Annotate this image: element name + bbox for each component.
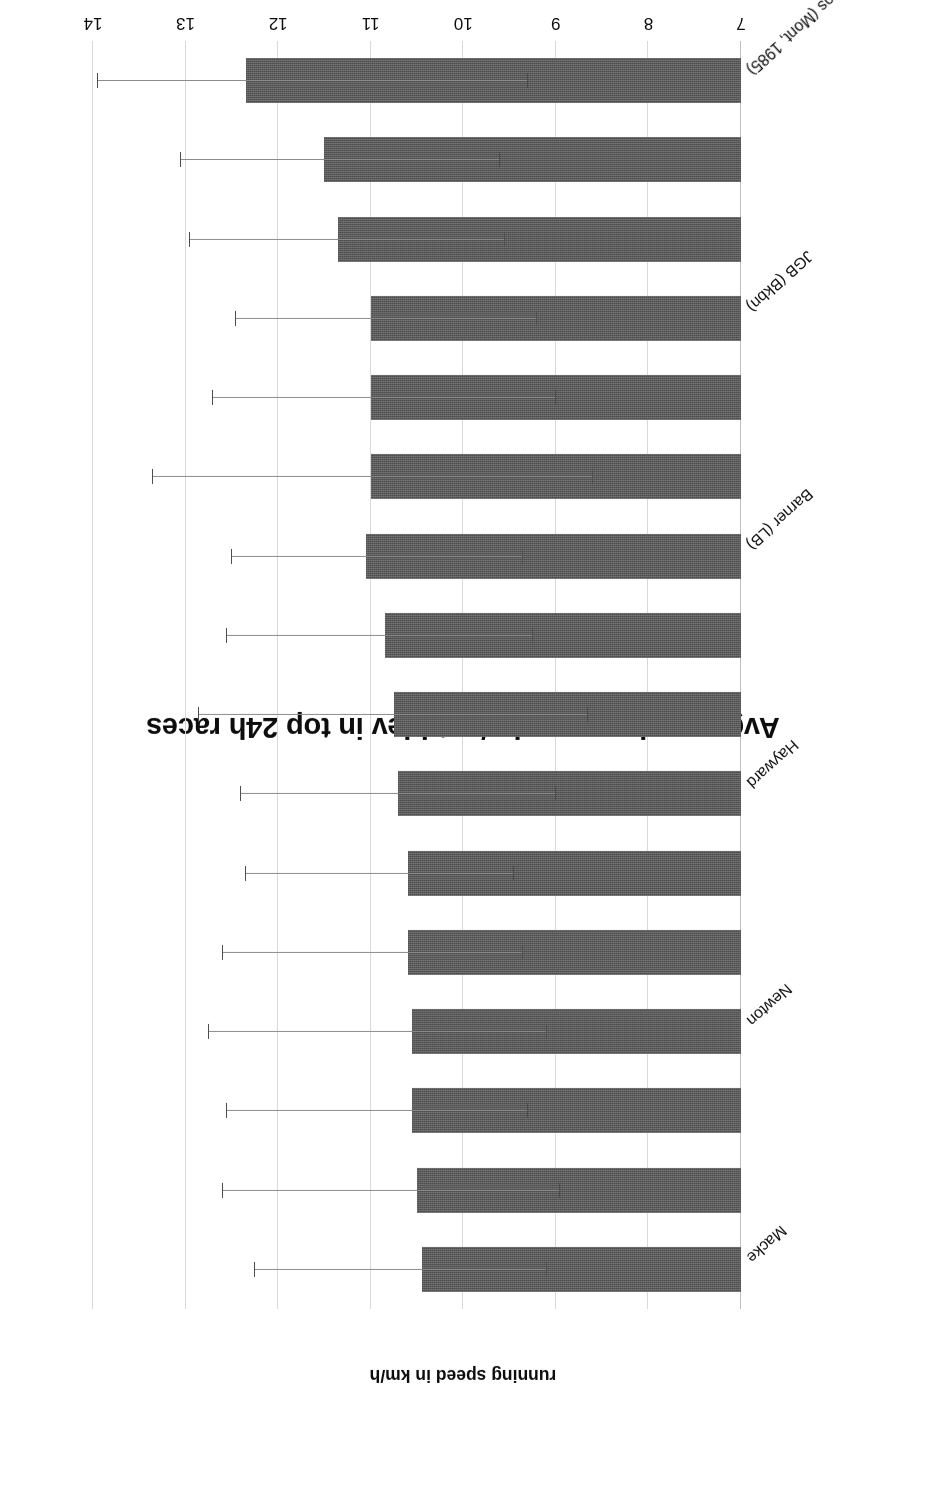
category-label: Newton xyxy=(743,980,795,1030)
error-bar-cap xyxy=(522,945,523,960)
bar-row xyxy=(93,1009,741,1054)
bar-row xyxy=(93,58,741,103)
axis-tick-label: 11 xyxy=(362,13,380,33)
error-bar-cap xyxy=(513,866,514,881)
error-bar xyxy=(232,556,524,557)
error-bar xyxy=(223,1190,561,1191)
bar-row xyxy=(93,454,741,499)
error-bar-cap xyxy=(226,1103,227,1118)
error-bar xyxy=(227,1110,528,1111)
error-bar xyxy=(213,397,556,398)
error-bar xyxy=(190,239,505,240)
bar-row xyxy=(93,375,741,420)
chart-page: Avg. running speed +/- stddev in top 24h… xyxy=(0,0,926,1504)
bar-row xyxy=(93,851,741,896)
error-bar-cap xyxy=(522,549,523,564)
error-bar-cap xyxy=(212,390,213,405)
error-bar xyxy=(255,1269,547,1270)
error-bar-cap xyxy=(499,152,500,167)
bar-chart: Avg. running speed +/- stddev in top 24h… xyxy=(0,0,926,1504)
bar-row xyxy=(93,1168,741,1213)
error-bar-cap xyxy=(254,1262,255,1277)
axis-tick-label: 8 xyxy=(644,13,653,33)
error-bar-cap xyxy=(222,1183,223,1198)
category-label: Macke xyxy=(743,1222,790,1267)
axis-tick-label: 12 xyxy=(269,13,288,33)
error-bar-cap xyxy=(236,311,237,326)
error-bar-cap xyxy=(555,390,556,405)
error-bar-cap xyxy=(180,152,181,167)
category-label: Barner (LB) xyxy=(743,485,817,554)
error-bar xyxy=(199,714,588,715)
error-bar-cap xyxy=(555,786,556,801)
category-label: Kouros (Mont, 1985) xyxy=(743,0,863,78)
error-bar xyxy=(237,318,538,319)
value-axis-label: running speed in km/h xyxy=(0,1365,926,1386)
error-bar-cap xyxy=(504,232,505,247)
error-bar xyxy=(209,1031,547,1032)
error-bar-cap xyxy=(198,707,199,722)
error-bar-cap xyxy=(536,311,537,326)
bar-row xyxy=(93,771,741,816)
bar-row xyxy=(93,534,741,579)
error-bar-cap xyxy=(222,945,223,960)
error-bar xyxy=(153,476,593,477)
axis-tick-label: 10 xyxy=(454,13,473,33)
error-bar xyxy=(246,873,514,874)
axis-tick-label: 13 xyxy=(176,13,195,33)
category-label: JGB (Bkbn) xyxy=(743,247,816,316)
error-bar-cap xyxy=(546,1024,547,1039)
error-bar-cap xyxy=(527,1103,528,1118)
error-bar-cap xyxy=(527,73,528,88)
error-bar-cap xyxy=(546,1262,547,1277)
error-bar-cap xyxy=(152,469,153,484)
axis-tick-label: 9 xyxy=(551,13,560,33)
bar-row xyxy=(93,296,741,341)
error-bar-cap xyxy=(592,469,593,484)
error-bar-cap xyxy=(189,232,190,247)
error-bar xyxy=(181,159,500,160)
bar-row xyxy=(93,1088,741,1133)
error-bar xyxy=(98,80,528,81)
bar-row xyxy=(93,930,741,975)
error-bar-cap xyxy=(231,549,232,564)
bar-row xyxy=(93,692,741,737)
error-bar-cap xyxy=(560,1183,561,1198)
error-bar xyxy=(241,793,556,794)
axis-tick-label: 14 xyxy=(84,13,103,33)
error-bar xyxy=(223,952,524,953)
axis-tick-label: 7 xyxy=(736,13,745,33)
bar-row xyxy=(93,217,741,262)
error-bar-cap xyxy=(240,786,241,801)
bar-row xyxy=(93,613,741,658)
error-bar-cap xyxy=(226,628,227,643)
category-label: Hayward xyxy=(743,736,802,792)
error-bar-cap xyxy=(587,707,588,722)
error-bar xyxy=(227,635,532,636)
bar-row xyxy=(93,1247,741,1292)
error-bar-cap xyxy=(245,866,246,881)
rotated-chart-container: Avg. running speed +/- stddev in top 24h… xyxy=(0,0,926,1504)
error-bar-cap xyxy=(97,73,98,88)
error-bar-cap xyxy=(208,1024,209,1039)
bar-row xyxy=(93,137,741,182)
error-bar-cap xyxy=(532,628,533,643)
plot-area: 7891011121314Kouros (Mont, 1985)JGB (Bkb… xyxy=(93,41,741,1309)
